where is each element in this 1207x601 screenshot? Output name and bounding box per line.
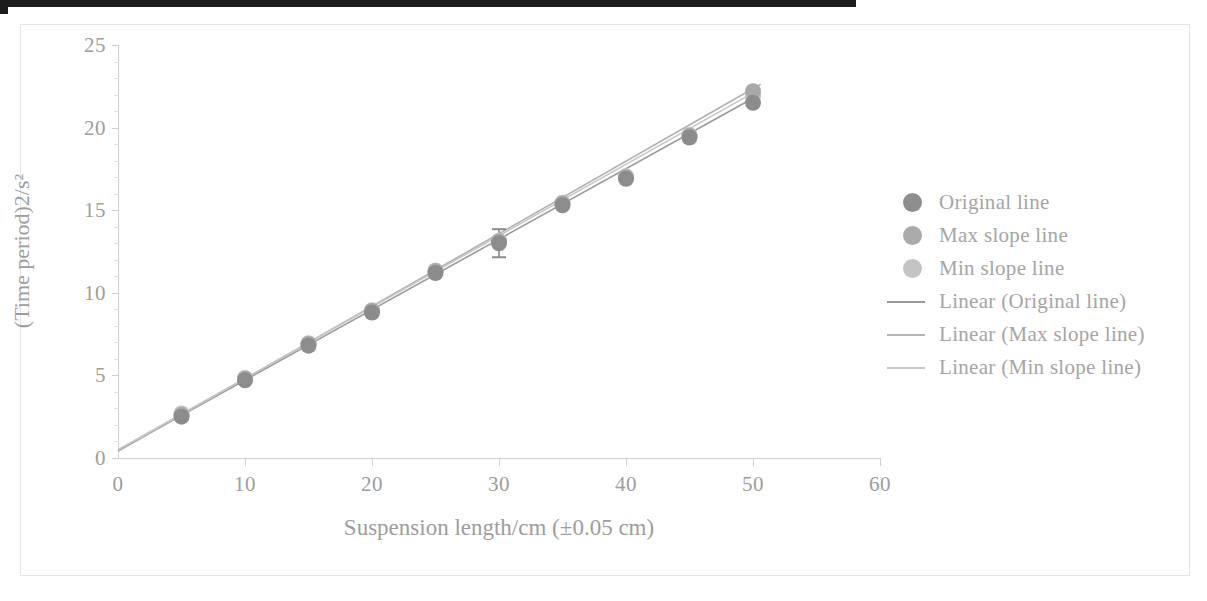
legend-swatch-line <box>899 334 925 336</box>
legend-item-label: Linear (Original line) <box>939 289 1126 314</box>
y-tick-label: 10 <box>84 280 106 305</box>
legend-swatch-dot <box>899 193 925 212</box>
x-tick-major <box>245 458 246 466</box>
y-tick-label: 20 <box>84 115 106 140</box>
y-tick-major <box>112 458 119 459</box>
x-tick-major <box>372 458 373 466</box>
legend-marker-line-icon <box>887 301 925 303</box>
data-point <box>745 95 761 111</box>
chart-data-layer <box>118 45 880 458</box>
x-tick-major <box>626 458 627 466</box>
legend-item-label: Max slope line <box>939 223 1068 248</box>
legend-marker-dot-icon <box>903 193 922 212</box>
data-point <box>491 235 507 251</box>
x-axis-title: Suspension length/cm (±0.05 cm) <box>344 515 654 541</box>
data-point <box>237 372 253 388</box>
legend-item[interactable]: Max slope line <box>899 219 1189 252</box>
legend-item[interactable]: Linear (Max slope line) <box>899 318 1189 351</box>
plot-area: 0510152025 0102030405060 (Time period)2/… <box>118 45 880 458</box>
legend-item-label: Min slope line <box>939 256 1065 281</box>
chart-legend: Original lineMax slope lineMin slope lin… <box>899 186 1189 384</box>
x-tick-label: 50 <box>742 472 764 497</box>
legend-swatch-line <box>899 367 925 369</box>
y-tick-label: 5 <box>95 363 106 388</box>
legend-marker-line-icon <box>887 367 925 369</box>
legend-swatch-dot <box>899 259 925 278</box>
scan-artifact-bar <box>0 0 856 7</box>
scan-artifact-corner <box>0 0 8 14</box>
x-tick-label: 20 <box>361 472 383 497</box>
legend-item-label: Original line <box>939 190 1050 215</box>
data-point <box>555 197 571 213</box>
x-tick-label: 10 <box>234 472 256 497</box>
data-point <box>428 265 444 281</box>
data-point <box>301 338 317 354</box>
y-tick-label: 25 <box>84 33 106 58</box>
data-point <box>174 409 190 425</box>
legend-item[interactable]: Linear (Min slope line) <box>899 351 1189 384</box>
data-point <box>364 305 380 321</box>
x-tick-label: 40 <box>615 472 637 497</box>
legend-item[interactable]: Original line <box>899 186 1189 219</box>
y-axis-title: (Time period)2/s² <box>9 174 35 328</box>
x-tick-major <box>499 458 500 466</box>
legend-swatch-line <box>899 301 925 303</box>
x-tick-major <box>880 458 881 466</box>
legend-swatch-dot <box>899 226 925 245</box>
legend-item-label: Linear (Max slope line) <box>939 322 1145 347</box>
data-point <box>682 130 698 146</box>
legend-item-label: Linear (Min slope line) <box>939 355 1141 380</box>
legend-marker-dot-icon <box>903 259 922 278</box>
y-tick-label: 15 <box>84 198 106 223</box>
legend-marker-line-icon <box>887 334 925 336</box>
data-point <box>618 171 634 187</box>
legend-marker-dot-icon <box>903 226 922 245</box>
x-tick-label: 60 <box>869 472 891 497</box>
x-tick-label: 30 <box>488 472 510 497</box>
legend-item[interactable]: Linear (Original line) <box>899 285 1189 318</box>
x-tick-major <box>753 458 754 466</box>
legend-item[interactable]: Min slope line <box>899 252 1189 285</box>
x-tick-label: 0 <box>113 472 124 497</box>
y-tick-label: 0 <box>95 446 106 471</box>
